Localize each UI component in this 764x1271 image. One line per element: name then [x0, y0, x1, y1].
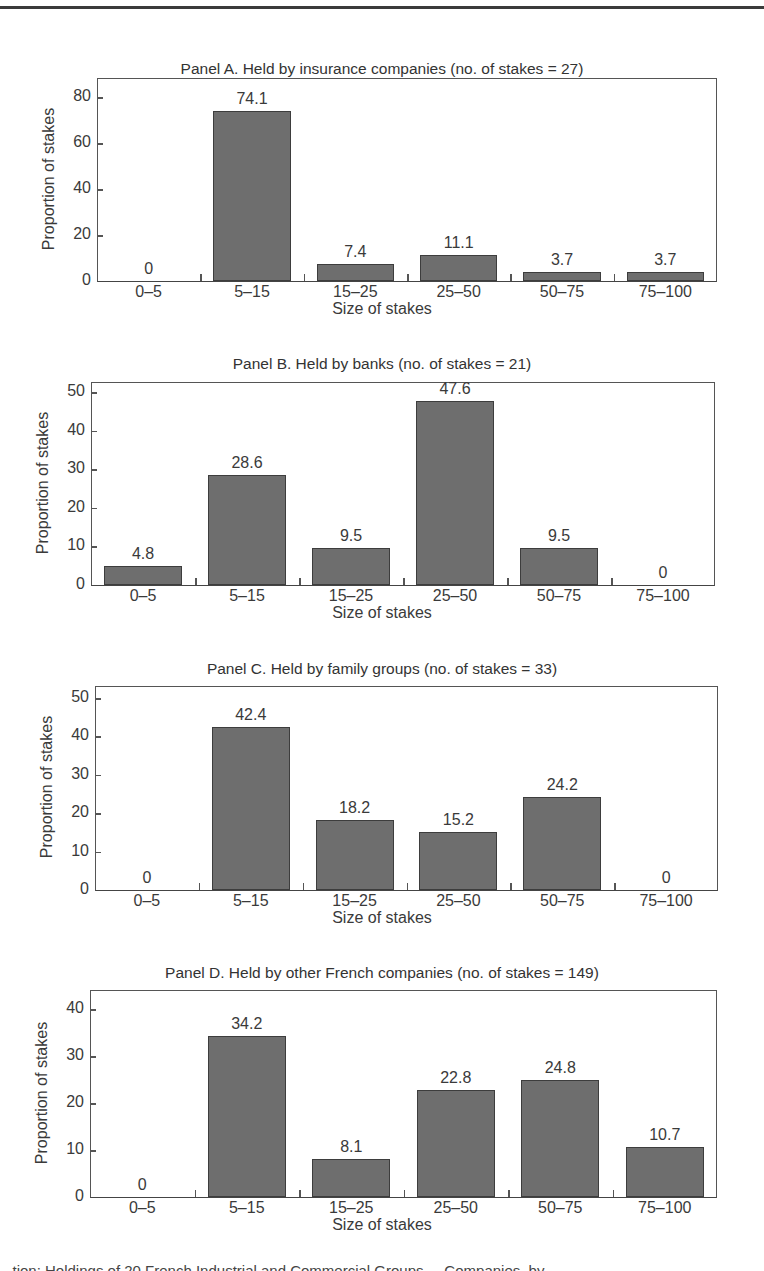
x-category-label: 25–50 — [410, 587, 500, 605]
figure-caption: ...tion: Holdings of 20 French Industria… — [0, 1258, 764, 1271]
x-category-label: 0–5 — [102, 892, 192, 910]
plot-area — [91, 382, 715, 586]
y-tick-label: 0 — [55, 575, 85, 593]
x-tick-mark — [195, 1190, 197, 1197]
x-tick-mark — [199, 883, 201, 890]
x-tick-mark — [200, 274, 202, 281]
y-tick-label: 20 — [59, 803, 89, 821]
y-axis-label: Proportion of stakes — [34, 383, 52, 583]
y-tick-mark — [91, 431, 97, 433]
x-category-label: 15–25 — [310, 283, 400, 301]
bar — [104, 566, 182, 585]
bar-value-label: 42.4 — [211, 706, 291, 724]
y-axis-label: Proportion of stakes — [33, 993, 51, 1193]
y-tick-label: 80 — [61, 87, 91, 105]
x-axis-label: Size of stakes — [0, 909, 764, 927]
x-category-label: 50–75 — [514, 587, 604, 605]
y-axis-label: Proportion of stakes — [40, 79, 58, 279]
x-category-label: 5–15 — [206, 892, 296, 910]
x-category-label: 5–15 — [207, 283, 297, 301]
bar-value-label: 3.7 — [625, 251, 705, 269]
bar-value-label: 4.8 — [103, 545, 183, 563]
x-tick-mark — [407, 274, 409, 281]
bar — [420, 255, 498, 281]
bar — [212, 727, 290, 890]
bar-value-label: 0 — [623, 564, 703, 582]
x-category-label: 5–15 — [202, 1199, 292, 1217]
x-category-label: 15–25 — [306, 587, 396, 605]
y-tick-mark — [95, 775, 101, 777]
y-tick-mark — [97, 235, 103, 237]
y-tick-label: 10 — [59, 842, 89, 860]
plot-area — [95, 686, 718, 891]
x-tick-mark — [614, 274, 616, 281]
bar-value-label: 24.8 — [520, 1059, 600, 1077]
y-tick-label: 20 — [61, 225, 91, 243]
x-tick-mark — [510, 274, 512, 281]
y-tick-mark — [97, 143, 103, 145]
bar-value-label: 9.5 — [519, 527, 599, 545]
x-category-label: 0–5 — [98, 587, 188, 605]
y-tick-mark — [90, 1103, 96, 1105]
bar-value-label: 24.2 — [522, 776, 602, 794]
x-category-label: 50–75 — [517, 283, 607, 301]
x-category-label: 0–5 — [104, 283, 194, 301]
bar-value-label: 74.1 — [212, 90, 292, 108]
bar — [416, 401, 494, 585]
panel-title: Panel D. Held by other French companies … — [0, 964, 764, 982]
bar-value-label: 0 — [102, 1176, 182, 1194]
x-category-label: 5–15 — [202, 587, 292, 605]
y-tick-label: 20 — [55, 498, 85, 516]
y-tick-mark — [95, 736, 101, 738]
y-tick-label: 40 — [59, 726, 89, 744]
y-axis-label: Proportion of stakes — [38, 687, 56, 887]
x-tick-mark — [404, 1190, 406, 1197]
bar-value-label: 28.6 — [207, 454, 287, 472]
x-tick-mark — [614, 883, 616, 890]
y-tick-label: 50 — [55, 382, 85, 400]
x-tick-mark — [195, 578, 197, 585]
bar — [213, 111, 291, 281]
bar-value-label: 3.7 — [522, 251, 602, 269]
x-tick-mark — [299, 1190, 301, 1197]
bar-value-label: 11.1 — [419, 234, 499, 252]
y-tick-label: 30 — [59, 765, 89, 783]
x-tick-mark — [508, 1190, 510, 1197]
bar — [317, 264, 395, 281]
x-category-label: 75–100 — [620, 283, 710, 301]
x-tick-mark — [613, 1190, 615, 1197]
y-tick-mark — [95, 813, 101, 815]
x-axis-label: Size of stakes — [0, 1216, 764, 1234]
bar — [417, 1090, 495, 1197]
x-tick-mark — [510, 883, 512, 890]
bar — [627, 272, 705, 281]
y-tick-label: 40 — [54, 999, 84, 1017]
y-tick-mark — [95, 852, 101, 854]
y-tick-mark — [91, 546, 97, 548]
x-axis-label: Size of stakes — [0, 300, 764, 318]
x-category-label: 15–25 — [306, 1199, 396, 1217]
x-category-label: 50–75 — [515, 1199, 605, 1217]
y-tick-mark — [90, 1150, 96, 1152]
bar — [521, 1080, 599, 1197]
y-tick-mark — [90, 1009, 96, 1011]
plot-area — [90, 990, 717, 1198]
bar — [208, 475, 286, 585]
x-category-label: 75–100 — [618, 587, 708, 605]
y-tick-label: 30 — [54, 1046, 84, 1064]
bar — [208, 1036, 286, 1197]
y-tick-label: 10 — [54, 1140, 84, 1158]
y-tick-label: 40 — [55, 421, 85, 439]
x-category-label: 25–50 — [411, 1199, 501, 1217]
bar — [523, 272, 601, 281]
y-tick-label: 0 — [61, 271, 91, 289]
y-tick-mark — [91, 508, 97, 510]
x-axis-label: Size of stakes — [0, 604, 764, 622]
y-tick-mark — [95, 698, 101, 700]
y-tick-label: 20 — [54, 1093, 84, 1111]
bar-value-label: 22.8 — [416, 1069, 496, 1087]
bar — [419, 832, 497, 890]
y-tick-mark — [90, 1056, 96, 1058]
y-tick-label: 40 — [61, 179, 91, 197]
y-tick-label: 50 — [59, 688, 89, 706]
